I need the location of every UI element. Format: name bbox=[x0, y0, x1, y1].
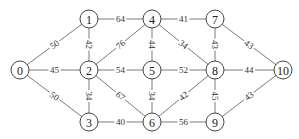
edge-weight-text: 43 bbox=[242, 89, 256, 103]
edge-weight-text: 44 bbox=[147, 40, 157, 50]
node-label: 4 bbox=[149, 13, 155, 27]
node-label: 10 bbox=[277, 64, 289, 78]
edge-weight-text: 43 bbox=[210, 40, 220, 50]
edge-weight-4-7: 41 bbox=[178, 14, 190, 24]
node-label: 3 bbox=[86, 116, 92, 130]
edge-weight-2-6: 67 bbox=[113, 88, 129, 103]
edge-weight-6-9: 56 bbox=[178, 117, 190, 127]
edge-weight-9-10: 43 bbox=[241, 88, 257, 103]
node-label: 7 bbox=[212, 13, 218, 27]
edge-weight-2-3: 34 bbox=[84, 90, 94, 102]
edge-weight-text: 34 bbox=[177, 38, 191, 52]
node-label: 0 bbox=[17, 64, 23, 78]
edge-weight-4-5: 44 bbox=[147, 39, 157, 51]
edge-weight-1-2: 42 bbox=[84, 39, 94, 51]
edge-weight-text: 67 bbox=[114, 89, 128, 103]
node-5: 5 bbox=[143, 61, 161, 79]
weighted-graph: 5045504264765434674044413452344256434344… bbox=[0, 0, 299, 139]
node-7: 7 bbox=[206, 10, 224, 28]
node-label: 1 bbox=[86, 13, 92, 27]
node-10: 10 bbox=[274, 61, 292, 79]
edge-weight-text: 40 bbox=[116, 117, 126, 127]
node-6: 6 bbox=[143, 113, 161, 131]
edge-weight-text: 42 bbox=[177, 89, 190, 102]
node-label: 6 bbox=[149, 116, 155, 130]
node-label: 5 bbox=[149, 64, 155, 78]
edge-weight-text: 44 bbox=[245, 65, 255, 75]
node-4: 4 bbox=[143, 10, 161, 28]
edge-weight-2-4: 76 bbox=[113, 37, 129, 52]
edge-weight-text: 56 bbox=[179, 117, 189, 127]
edge-weight-text: 45 bbox=[210, 92, 220, 102]
edge-weight-1-4: 64 bbox=[115, 14, 127, 24]
edge-weight-2-5: 54 bbox=[115, 65, 127, 75]
edge-weight-7-8: 43 bbox=[210, 39, 220, 51]
edge-weight-text: 52 bbox=[179, 65, 188, 75]
edge-weight-text: 43 bbox=[242, 38, 256, 52]
node-label: 8 bbox=[212, 64, 218, 78]
edge-weight-5-8: 52 bbox=[178, 65, 190, 75]
edge-weight-0-3: 50 bbox=[47, 88, 63, 103]
node-label: 9 bbox=[212, 116, 218, 130]
edge-weight-text: 45 bbox=[50, 65, 60, 75]
edge-weight-text: 34 bbox=[147, 92, 157, 102]
node-8: 8 bbox=[206, 61, 224, 79]
edge-weight-text: 34 bbox=[84, 92, 94, 102]
edge-weight-5-6: 34 bbox=[147, 90, 157, 102]
edge-weight-text: 64 bbox=[116, 14, 126, 24]
edge-weight-7-10: 43 bbox=[241, 37, 257, 52]
edge-weight-4-8: 34 bbox=[176, 37, 192, 52]
node-1: 1 bbox=[80, 10, 98, 28]
edge-weight-8-10: 44 bbox=[243, 65, 255, 75]
edge-weight-text: 76 bbox=[114, 37, 128, 51]
edge-weight-text: 54 bbox=[116, 65, 126, 75]
edge-weight-text: 50 bbox=[48, 38, 62, 52]
edge-weight-8-9: 45 bbox=[210, 90, 220, 102]
node-label: 2 bbox=[86, 64, 92, 78]
node-0: 0 bbox=[11, 61, 29, 79]
edge-weight-text: 50 bbox=[48, 89, 62, 103]
edge-weight-0-2: 45 bbox=[49, 65, 61, 75]
node-3: 3 bbox=[80, 113, 98, 131]
edge-weight-6-8: 42 bbox=[176, 88, 192, 103]
edge-weight-0-1: 50 bbox=[47, 37, 63, 52]
edge-weight-text: 41 bbox=[179, 14, 188, 24]
node-9: 9 bbox=[206, 113, 224, 131]
edge-weight-3-6: 40 bbox=[115, 117, 127, 127]
node-2: 2 bbox=[80, 61, 98, 79]
edge-weight-text: 42 bbox=[84, 40, 94, 49]
